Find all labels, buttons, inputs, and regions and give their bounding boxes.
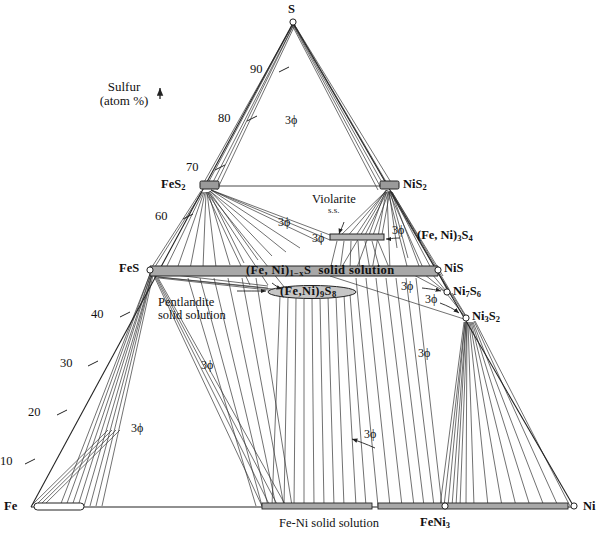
- node-ni3s2: [463, 315, 469, 321]
- label-corner-ni: Ni: [583, 500, 596, 513]
- tick-label-70: 70: [186, 161, 199, 174]
- arrow-3phi-ni7s6: [422, 288, 441, 291]
- label-nis: NiS: [444, 262, 463, 275]
- label-ni7s6: Ni7S6: [453, 285, 481, 299]
- arrow-feni3s4: [386, 238, 400, 239]
- band-to-base: [188, 278, 442, 506]
- label-feni3: FeNi3: [420, 516, 450, 530]
- sulfur-axis-line1: Sulfur: [86, 80, 162, 94]
- tick-label-60: 60: [155, 210, 168, 223]
- label-pentlandite-formula: (Fe,Ni)9S8: [280, 285, 337, 299]
- pentlandite-line2: solid solution: [158, 309, 226, 322]
- label-nis2: NiS2: [403, 178, 427, 192]
- label-3phi-8: 3ϕ: [131, 422, 143, 435]
- node-ni: [571, 503, 577, 509]
- violarite-line2: s.s.: [312, 206, 356, 215]
- label-fes2: FeS2: [161, 178, 185, 192]
- label-3phi-10: 3ϕ: [418, 347, 430, 360]
- tick-label-30: 30: [60, 357, 73, 370]
- label-3phi-6: 3ϕ: [425, 293, 437, 306]
- label-3phi-2: 3ϕ: [278, 216, 290, 229]
- tick-label-40: 40: [91, 308, 104, 321]
- tick-label-90: 90: [250, 63, 263, 76]
- node-ni7s6: [444, 289, 450, 295]
- label-violarite: Violarite s.s.: [312, 193, 356, 216]
- label-corner-fe: Fe: [4, 500, 17, 513]
- label-3phi-7: 3ϕ: [201, 359, 213, 372]
- label-3phi-9: 3ϕ: [364, 428, 376, 441]
- bar-nis2: [380, 181, 399, 189]
- sulfur-axis-label: Sulfur (atom %): [86, 80, 162, 107]
- arrow-violarite: [339, 222, 344, 234]
- bar-violarite: [330, 234, 384, 240]
- bundle-s-fes2: [203, 24, 295, 190]
- label-feni-solid-solution: Fe-Ni solid solution: [279, 517, 379, 530]
- label-ni3s2: Ni3S2: [472, 310, 500, 324]
- node-nis: [435, 267, 441, 273]
- tick-label-20: 20: [28, 406, 41, 419]
- label-3phi-4: 3ϕ: [392, 224, 404, 237]
- label-apex-s: S: [288, 3, 295, 16]
- node-fes: [147, 267, 153, 273]
- node-feni3: [442, 503, 448, 509]
- label-feni3s4: (Fe, Ni)3S4: [417, 229, 473, 243]
- node-s: [290, 19, 296, 25]
- label-3phi-3: 3ϕ: [312, 232, 324, 245]
- label-fenis-band: (Fe, Ni)1−xS solid solution: [246, 264, 395, 278]
- bar-feni-solid-solution-right: [378, 503, 568, 509]
- bar-fe-corner: [34, 503, 84, 510]
- label-fes: FeS: [119, 262, 139, 275]
- fan-pentlandite: [272, 294, 366, 506]
- bar-feni-solid-solution-left: [262, 503, 372, 509]
- label-3phi-5: 3ϕ: [401, 280, 413, 293]
- tick-label-10: 10: [0, 455, 13, 468]
- label-3phi-1: 3ϕ: [285, 114, 297, 127]
- bar-fes2: [200, 181, 219, 189]
- sulfur-axis-line2: (atom %): [86, 94, 162, 108]
- tick-label-80: 80: [218, 112, 231, 125]
- label-pentlandite-solid-solution: Pentlandite solid solution: [158, 296, 226, 322]
- phase-diagram-figure: Sulfur (atom %) S 90 80 70 60 40 30 20 1…: [0, 0, 598, 546]
- fan-ni3s2: [440, 321, 570, 506]
